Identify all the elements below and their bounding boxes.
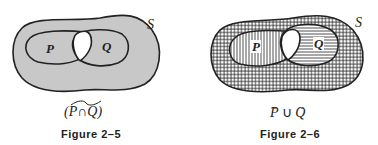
figure-2-6: P Q S ~ P ∪ ~ Q Figure 2–6 [188, 0, 378, 145]
figure-caption: Figure 2–6 [260, 128, 320, 140]
tilde-icon: ~ [298, 101, 304, 113]
set-q-label: Q [313, 37, 324, 50]
figure-caption: Figure 2–5 [61, 128, 121, 140]
expression-complement-intersection: (P∩Q) [64, 104, 102, 120]
expression-union-of-complements: ~ P ∪ ~ Q [270, 104, 305, 121]
figure-2-5: P Q S (P∩Q) Figure 2–5 [0, 0, 190, 145]
venn-diagram-2-6 [188, 0, 378, 145]
set-p-label: P [46, 41, 54, 57]
tilde-icon: ~ [271, 101, 277, 113]
set-q-label: Q [102, 39, 111, 55]
universe-s-label: S [147, 17, 154, 33]
venn-diagram-2-5 [0, 0, 190, 145]
expression-union-op: ∪ [282, 105, 292, 120]
set-p-label: P [251, 40, 261, 53]
universe-s-label: S [355, 15, 362, 31]
